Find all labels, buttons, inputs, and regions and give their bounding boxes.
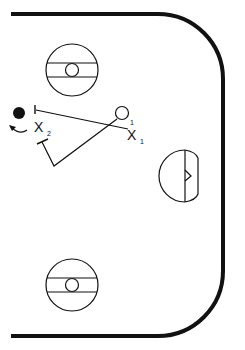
puck-carrier-icon	[13, 107, 25, 119]
skate-line-x1	[35, 105, 128, 129]
x1-superscript: 1	[130, 119, 134, 126]
curved-arrow-icon	[9, 125, 27, 132]
x2-subscript: 2	[47, 130, 51, 137]
x1-subscript: 1	[140, 138, 144, 145]
goal-crease	[159, 150, 198, 202]
open-player-icon	[116, 107, 129, 120]
skate-route-x2	[37, 119, 117, 166]
hockey-play-diagram: 1 X 1 X 2	[0, 0, 245, 350]
rink-boundary	[11, 14, 223, 336]
bottom-faceoff-circle	[46, 259, 98, 311]
x2-label: X	[34, 119, 44, 135]
x1-label: X	[127, 127, 137, 143]
top-faceoff-circle	[46, 44, 98, 96]
